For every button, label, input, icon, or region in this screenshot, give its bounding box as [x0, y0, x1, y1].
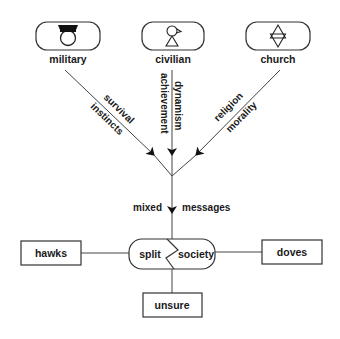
- outcome-hawks: hawks: [21, 241, 81, 265]
- unsure-label: unsure: [154, 299, 189, 311]
- edge-label-dynamism: dynamism: [173, 81, 184, 131]
- edge-label-achievement: achievement: [159, 73, 170, 134]
- split-society-diagram: military civilian church survival instin…: [0, 0, 340, 339]
- source-military: military: [36, 22, 100, 65]
- military-join: [154, 155, 172, 176]
- source-civilian: civilian: [142, 22, 204, 65]
- edge-label-messages: messages: [182, 202, 231, 213]
- star-of-david-icon: [271, 25, 286, 47]
- hawks-label: hawks: [35, 247, 67, 259]
- split-society-node: split society: [129, 239, 215, 269]
- church-join: [172, 155, 196, 176]
- source-church: church: [246, 22, 310, 65]
- doves-label: doves: [277, 246, 308, 258]
- person-icon: [166, 26, 181, 46]
- military-label: military: [49, 53, 87, 65]
- outcome-doves: doves: [262, 240, 322, 264]
- edge-label-mixed: mixed: [133, 202, 162, 213]
- church-label: church: [260, 53, 295, 65]
- outcome-unsure: unsure: [143, 293, 202, 317]
- split-label: split: [139, 248, 161, 260]
- military-cap-icon: [58, 25, 78, 46]
- civilian-label: civilian: [155, 53, 191, 65]
- society-label: society: [178, 248, 214, 260]
